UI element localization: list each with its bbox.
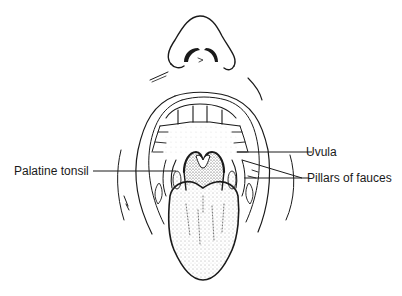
right-face-contour (286, 155, 294, 220)
tongue (169, 182, 239, 280)
mouth-anatomy-diagram: Palatine tonsil Uvula Pillars of fauces (0, 0, 402, 296)
nose (168, 16, 235, 70)
left-nostril (184, 48, 200, 62)
label-pillars-of-fauces: Pillars of fauces (307, 171, 392, 185)
label-palatine-tonsil: Palatine tonsil (14, 164, 89, 178)
left-face-hatch (124, 196, 129, 210)
label-uvula: Uvula (306, 145, 337, 159)
right-nostril (204, 48, 218, 62)
right-cheek-line (248, 78, 262, 100)
left-face-contour (118, 150, 124, 220)
palate (163, 122, 239, 156)
left-cheek-hatch (152, 76, 166, 82)
